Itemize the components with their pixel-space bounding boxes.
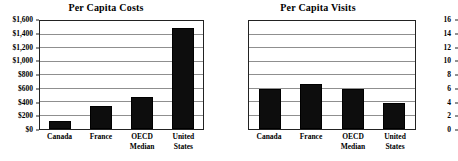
x-tick-label-visits: United States	[374, 132, 416, 158]
y-tick-label-costs: $1,000	[12, 57, 33, 65]
x-tick-label-visits: OECD Median	[332, 132, 374, 158]
y-tick-label-visits: 16	[444, 16, 452, 24]
x-tick-label-costs: United States	[163, 132, 204, 158]
bar-series-costs	[40, 21, 203, 129]
bar-slot-visits	[374, 21, 416, 129]
bar-slot-costs	[162, 21, 203, 129]
y-tick-label-costs: $400	[18, 99, 33, 107]
y-tick-label-costs: $600	[18, 85, 33, 93]
y-tick-label-visits: 2	[447, 112, 451, 120]
bar-visits-france	[300, 84, 322, 129]
chart-title-costs: Per Capita Costs	[0, 1, 212, 14]
y-tick-label-costs: $1,600	[12, 16, 33, 24]
x-tick-label-visits: France	[290, 132, 332, 158]
x-tick-label-costs: France	[80, 132, 121, 158]
bar-series-visits	[249, 21, 415, 129]
y-tick-label-visits: 14	[444, 30, 452, 38]
y-tick-label-costs: $1,400	[12, 30, 33, 38]
y-axis-visits: 0246810121416	[422, 20, 454, 130]
bar-costs-canada	[49, 121, 71, 129]
bar-slot-costs	[40, 21, 81, 129]
plot-area-visits	[248, 20, 416, 130]
y-tick-label-costs: $0	[26, 126, 34, 134]
y-tick-label-visits: 6	[447, 85, 451, 93]
x-axis-visits: CanadaFranceOECD MedianUnited States	[248, 132, 416, 158]
x-tick-label-visits: Canada	[248, 132, 290, 158]
bar-slot-costs	[122, 21, 163, 129]
bar-costs-france	[90, 106, 112, 129]
plot-area-costs	[39, 20, 204, 130]
y-tick-label-costs: $800	[18, 71, 33, 79]
bar-costs-oecd-median	[131, 97, 153, 129]
bar-visits-united-states	[383, 103, 405, 129]
y-tick-label-visits: 12	[444, 44, 452, 52]
y-tick-label-visits: 10	[444, 57, 452, 65]
chart-title-visits: Per Capita Visits	[212, 1, 424, 14]
bar-visits-oecd-median	[342, 89, 364, 130]
y-axis-costs: $0$200$400$600$800$1,000$1,200$1,400$1,6…	[0, 20, 36, 130]
bar-visits-canada	[259, 89, 281, 130]
y-tick-label-visits: 0	[447, 126, 451, 134]
bar-slot-costs	[81, 21, 122, 129]
y-tick-label-costs: $200	[18, 112, 33, 120]
y-tick-label-visits: 4	[447, 99, 451, 107]
bar-costs-united-states	[172, 28, 194, 129]
chart-panel-per-capita-visits: Per Capita Visits 0246810121416 CanadaFr…	[212, 0, 424, 161]
x-tick-label-costs: OECD Median	[122, 132, 163, 158]
bar-slot-visits	[291, 21, 333, 129]
x-axis-costs: CanadaFranceOECD MedianUnited States	[39, 132, 204, 158]
chart-panel-per-capita-costs: Per Capita Costs $0$200$400$600$800$1,00…	[0, 0, 212, 161]
y-tick-label-costs: $1,200	[12, 44, 33, 52]
y-tick-label-visits: 8	[447, 71, 451, 79]
bar-slot-visits	[332, 21, 374, 129]
x-tick-label-costs: Canada	[39, 132, 80, 158]
bar-slot-visits	[249, 21, 291, 129]
